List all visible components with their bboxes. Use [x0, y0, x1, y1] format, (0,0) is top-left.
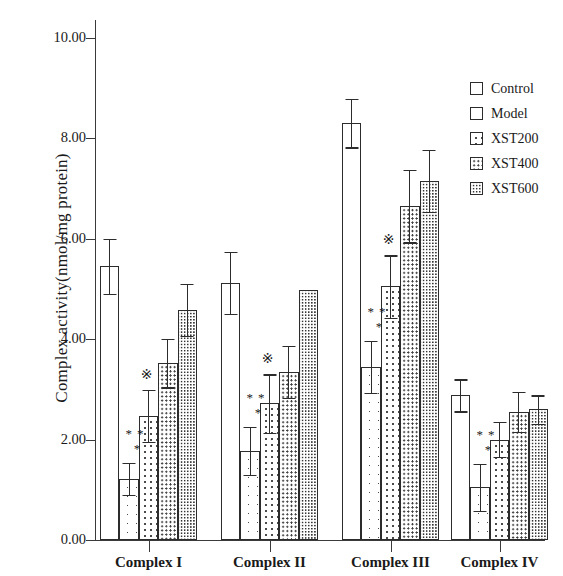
y-tick-label: 0.00 — [30, 531, 86, 548]
legend-item: Control — [470, 78, 538, 99]
error-bar-cap-lower — [282, 398, 295, 399]
error-bar-cap-lower — [123, 495, 136, 496]
error-bar-cap-upper — [493, 422, 506, 423]
error-bar-cap-upper — [142, 390, 155, 391]
x-tick-mark — [391, 541, 392, 552]
error-bar-cap-lower — [493, 457, 506, 458]
legend-item: XST400 — [470, 153, 538, 174]
bar — [299, 290, 318, 540]
legend-swatch-icon — [470, 107, 483, 120]
error-bar-cap-upper — [181, 284, 194, 285]
significance-marker-group: *** — [368, 307, 391, 332]
legend-swatch-icon — [470, 132, 483, 145]
significance-marker-single-star: * — [368, 322, 391, 332]
y-tick-mark — [86, 138, 96, 139]
x-axis-line — [95, 540, 545, 541]
error-bar-cap-lower — [181, 336, 194, 337]
error-bar-stem — [109, 239, 110, 294]
significance-marker-reference: ※ — [141, 366, 153, 382]
significance-marker-single-star: * — [247, 408, 270, 418]
bar — [342, 123, 361, 540]
error-bar-cap-lower — [263, 433, 276, 434]
significance-marker-single-star: * — [477, 445, 500, 455]
bar — [221, 283, 240, 540]
error-bar-stem — [409, 170, 410, 242]
significance-marker-double-star: ** — [126, 429, 149, 439]
significance-marker-reference: ※ — [262, 350, 274, 366]
error-bar-stem — [351, 99, 352, 147]
error-bar-cap-lower — [454, 411, 467, 412]
error-bar-cap-lower — [403, 242, 416, 243]
legend-item: Model — [470, 103, 538, 124]
error-bar-cap-lower — [103, 294, 116, 295]
error-bar-cap-upper — [161, 339, 174, 340]
y-tick-mark — [86, 440, 96, 441]
significance-marker-group: *** — [247, 393, 270, 418]
legend-item: XST600 — [470, 178, 538, 199]
error-bar-cap-lower — [365, 393, 378, 394]
error-bar-cap-lower — [532, 424, 545, 425]
y-tick-mark — [86, 339, 96, 340]
error-bar-stem — [429, 150, 430, 212]
legend: ControlModelXST200XST400XST600 — [470, 78, 538, 203]
error-bar-stem — [371, 341, 372, 393]
error-bar-cap-lower — [244, 475, 257, 476]
y-tick-label: 6.00 — [30, 230, 86, 247]
y-tick-label: 10.00 — [30, 29, 86, 46]
bar — [529, 409, 548, 540]
error-bar-cap-upper — [263, 374, 276, 375]
legend-label: XST400 — [491, 156, 538, 172]
significance-marker-double-star: ** — [368, 307, 391, 317]
y-tick-label: 2.00 — [30, 431, 86, 448]
x-axis-group-label: Complex II — [233, 554, 306, 571]
error-bar-stem — [518, 392, 519, 432]
error-bar-cap-lower — [224, 314, 237, 315]
error-bar-stem — [230, 252, 231, 314]
bar — [158, 363, 177, 540]
y-tick-label: 8.00 — [30, 129, 86, 146]
significance-marker-group: *** — [126, 429, 149, 454]
error-bar-cap-upper — [282, 346, 295, 347]
error-bar-cap-upper — [103, 239, 116, 240]
significance-marker-single-star: * — [126, 444, 149, 454]
error-bar-cap-upper — [532, 395, 545, 396]
error-bar-stem — [460, 379, 461, 411]
error-bar-cap-upper — [224, 252, 237, 253]
error-bar-cap-lower — [474, 511, 487, 512]
error-bar-stem — [187, 284, 188, 336]
bar — [100, 266, 119, 540]
legend-swatch-icon — [470, 82, 483, 95]
error-bar-cap-upper — [365, 341, 378, 342]
y-axis-line — [95, 20, 96, 541]
significance-marker-reference: ※ — [383, 231, 395, 247]
error-bar-stem — [129, 463, 130, 495]
x-axis-group-label: Complex III — [351, 554, 430, 571]
error-bar-cap-upper — [474, 464, 487, 465]
significance-marker-group: *** — [477, 430, 500, 455]
y-tick-label: 4.00 — [30, 330, 86, 347]
error-bar-cap-upper — [512, 392, 525, 393]
bar — [420, 181, 439, 540]
significance-marker-double-star: ** — [477, 430, 500, 440]
x-tick-mark — [270, 541, 271, 552]
error-bar-cap-upper — [454, 379, 467, 380]
error-bar-cap-upper — [123, 463, 136, 464]
error-bar-stem — [538, 395, 539, 423]
error-bar-cap-upper — [244, 427, 257, 428]
error-bar-cap-upper — [423, 150, 436, 151]
error-bar-cap-upper — [384, 255, 397, 256]
significance-marker-double-star: ** — [247, 393, 270, 403]
error-bar-cap-upper — [403, 170, 416, 171]
error-bar-stem — [167, 339, 168, 387]
error-bar-cap-upper — [345, 99, 358, 100]
legend-item: XST200 — [470, 128, 538, 149]
legend-label: Control — [491, 81, 534, 97]
bar — [400, 206, 419, 540]
x-tick-mark — [149, 541, 150, 552]
bar-chart-figure: Complex activity(nmol/mg protein) 10.008… — [0, 0, 563, 576]
error-bar-cap-lower — [161, 387, 174, 388]
error-bar-stem — [288, 346, 289, 398]
legend-label: XST600 — [491, 181, 538, 197]
legend-swatch-icon — [470, 182, 483, 195]
x-axis-group-label: Complex IV — [461, 554, 539, 571]
